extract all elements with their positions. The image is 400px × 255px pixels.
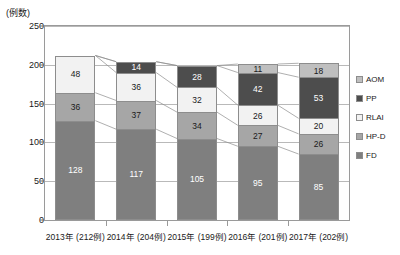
legend-label: HP-D [366,132,386,141]
bar-segment-fd[interactable]: 85 [299,154,339,220]
connector-line [156,129,177,138]
bar-segment-hp-d[interactable]: 26 [299,134,339,154]
bar-segment-value: 53 [314,94,323,103]
legend-swatch-icon [356,114,363,121]
x-axis-tick-label: 2017年 (202例) [289,230,348,242]
bar-column[interactable]: 1853202685 [299,63,339,220]
bar-segment-value: 85 [314,183,323,192]
connector-line [95,55,116,61]
connector-line [217,87,238,105]
bar-segment-value: 117 [129,170,143,179]
bar-segment-value: 36 [71,103,80,112]
connector-line [95,121,116,130]
bar-segment-value: 32 [192,96,201,105]
x-axis-separator [227,221,228,226]
legend-swatch-icon [356,133,363,140]
bar-segment-hp-d[interactable]: 27 [238,125,278,146]
legend-item-rlai[interactable]: RLAI [356,108,400,127]
bar-segment-value: 128 [68,166,82,175]
bar-segment-rlai[interactable]: 48 [55,56,95,93]
connector-line [156,73,177,88]
connector-line [278,105,299,118]
legend-item-hp-d[interactable]: HP-D [356,127,400,146]
plot-area: 4836128143637117283234105114226279518532… [44,25,350,221]
bar-segment-fd[interactable]: 117 [116,129,156,220]
connector-line [156,100,177,112]
bar-segment-pp[interactable]: 42 [238,73,278,106]
bar-segment-pp[interactable]: 14 [116,62,156,73]
legend-swatch-icon [356,95,363,102]
bar-segment-value: 36 [131,83,140,92]
x-axis-tick-label: 2015年 (199例) [167,230,226,242]
bar-segment-value: 26 [314,140,323,149]
bar-segment-value: 27 [253,132,262,141]
bar-column[interactable]: 1142262795 [238,64,278,220]
legend-label: FD [366,151,377,160]
bar-segment-value: 42 [253,85,262,94]
connector-line [95,55,116,61]
connector-line [278,146,299,154]
bar-segment-aom[interactable]: 11 [238,64,278,73]
gridline [45,26,349,27]
bar-segment-value: 26 [253,112,262,121]
bar-segment-value: 28 [192,73,201,82]
bar-segment-fd[interactable]: 105 [177,139,217,220]
legend-label: PP [366,94,377,103]
legend-label: RLAI [366,113,384,122]
connector-line [217,112,238,125]
bar-segment-value: 20 [314,122,323,131]
bar-segment-rlai[interactable]: 20 [299,118,339,134]
x-axis-separator [167,221,168,226]
bar-segment-value: 48 [71,70,80,79]
legend-item-fd[interactable]: FD [356,146,400,165]
chart-legend: AOMPPRLAIHP-DFD [356,70,400,165]
legend-swatch-icon [356,76,363,83]
bar-segment-value: 18 [314,67,323,76]
x-axis-separator [288,221,289,226]
bar-segment-hp-d[interactable]: 34 [177,112,217,138]
bar-segment-pp[interactable]: 28 [177,66,217,88]
bar-segment-pp[interactable]: 53 [299,77,339,118]
x-axis-tick-label: 2016年 (201例) [228,230,287,242]
bar-segment-value: 95 [253,179,262,188]
bar-column[interactable]: 143637117 [116,62,156,220]
bar-segment-value: 14 [131,63,140,72]
bar-segment-hp-d[interactable]: 37 [116,101,156,130]
legend-item-pp[interactable]: PP [356,89,400,108]
y-axis-unit-label: (例数) [6,6,30,19]
bar-segment-rlai[interactable]: 32 [177,87,217,112]
bar-segment-rlai[interactable]: 36 [116,73,156,101]
bar-segment-hp-d[interactable]: 36 [55,93,95,121]
bar-segment-fd[interactable]: 128 [55,121,95,220]
bar-segment-fd[interactable]: 95 [238,146,278,220]
connector-line [278,125,299,134]
x-axis-tick-label: 2013年 (212例) [46,230,105,242]
legend-item-aom[interactable]: AOM [356,70,400,89]
bar-segment-value: 11 [253,65,262,73]
bar-column[interactable]: 283234105 [177,66,217,220]
legend-swatch-icon [356,152,363,159]
bar-segment-aom[interactable]: 18 [299,63,339,77]
bar-segment-value: 37 [131,111,140,120]
connector-line [278,73,299,78]
bar-segment-value: 34 [192,122,201,131]
connector-line [217,66,238,73]
stacked-bar-chart: (例数) 050100150200250 4836128143637117283… [0,0,400,255]
bar-segment-value: 105 [190,175,204,184]
connector-line [95,93,116,101]
legend-label: AOM [366,75,384,84]
x-axis-tick-label: 2014年 (204例) [107,230,166,242]
bar-segment-rlai[interactable]: 26 [238,105,278,125]
x-axis-separator [106,221,107,226]
bar-column[interactable]: 4836128 [55,56,95,220]
